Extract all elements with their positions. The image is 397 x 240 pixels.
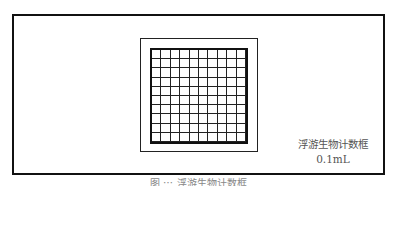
grid-cell [237,59,246,68]
grid-cell [199,96,208,105]
grid-cell [190,68,199,77]
grid-cell [152,68,161,77]
grid-cell [171,59,180,68]
grid-cell [161,105,170,114]
grid-cell [218,133,227,142]
grid-cell [227,68,236,77]
grid-cell [218,68,227,77]
grid-cell [208,50,217,59]
grid-cell [190,96,199,105]
grid-cell [208,87,217,96]
grid-cell [227,50,236,59]
grid-cell [161,68,170,77]
grid-cell [171,87,180,96]
grid-cell [161,124,170,133]
grid-cell [237,78,246,87]
grid-cell [218,78,227,87]
grid-cell [190,114,199,123]
grid-cell [190,133,199,142]
grid-cell [190,50,199,59]
grid-cell [190,59,199,68]
grid-cell [180,105,189,114]
grid-cell [218,96,227,105]
grid-cell [180,50,189,59]
grid-cell [180,78,189,87]
grid-cell [227,96,236,105]
grid-cell [218,87,227,96]
grid-cell [199,133,208,142]
grid-cell [199,124,208,133]
grid-cell [237,68,246,77]
grid-cell [218,59,227,68]
grid-cell [161,114,170,123]
grid-cell [218,105,227,114]
grid-cell [227,133,236,142]
grid-cell [227,105,236,114]
grid-cell [180,124,189,133]
grid-cell [161,59,170,68]
grid-cell [152,78,161,87]
grid-cell [237,50,246,59]
grid-cell [208,96,217,105]
grid-cell [208,114,217,123]
grid-cell [152,105,161,114]
grid-cell [190,78,199,87]
grid-cell [237,114,246,123]
grid-cell [237,105,246,114]
grid-cell [218,50,227,59]
grid-cell [161,78,170,87]
grid-cell [237,87,246,96]
grid-cell [208,68,217,77]
grid-cell [152,59,161,68]
grid-cell [152,87,161,96]
grid-cell [152,124,161,133]
grid-cell [199,114,208,123]
grid-cell [237,133,246,142]
grid-cell [227,78,236,87]
grid-cell [218,124,227,133]
grid-cell [180,87,189,96]
slide-label: 浮游生物计数框 0.1mL [288,137,378,167]
grid-cell [171,105,180,114]
grid-cell [152,114,161,123]
grid-cell [199,105,208,114]
grid-cell [199,78,208,87]
grid-cell [161,87,170,96]
grid-cell [180,96,189,105]
grid-cell [171,50,180,59]
grid-cell [161,96,170,105]
grid-cell [208,133,217,142]
grid-cell [171,78,180,87]
grid-cell [237,124,246,133]
grid-cell [208,59,217,68]
grid-cell [199,50,208,59]
grid-cell [171,96,180,105]
grid-cell [161,133,170,142]
grid-cell [218,114,227,123]
grid-cell [152,50,161,59]
grid-cell [190,105,199,114]
grid-cell [227,124,236,133]
grid-cell [171,114,180,123]
grid-cell [171,68,180,77]
grid-cell [180,133,189,142]
grid-cell [227,114,236,123]
grid-cell [152,133,161,142]
grid-cell [199,59,208,68]
grid-cell [237,96,246,105]
grid-cell [199,87,208,96]
grid-cell [227,59,236,68]
grid-cell [208,78,217,87]
grid-cell [208,105,217,114]
grid-cell [171,124,180,133]
counting-grid [150,48,248,144]
grid-cell [190,87,199,96]
figure-caption: 图 ⋯ 浮游生物计数框 [0,178,397,186]
grid-cell [171,133,180,142]
grid-cell [180,68,189,77]
grid-cell [180,59,189,68]
slide-label-volume: 0.1mL [288,152,378,167]
grid-cell [208,124,217,133]
grid-cell [199,68,208,77]
grid-cell [190,124,199,133]
